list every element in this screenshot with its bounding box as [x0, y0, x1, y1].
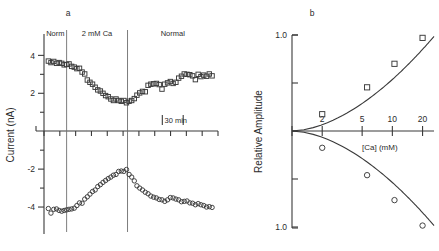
data-point-circle — [132, 179, 136, 183]
data-point-square — [420, 35, 425, 40]
data-point-square — [146, 83, 150, 87]
x-axis-title: [Ca] (mM) — [362, 143, 398, 152]
panel-b-label: b — [310, 8, 315, 18]
y-axis-title: Current (nA) — [5, 107, 16, 162]
panel-a-plot: a42-2-4Norm2 mM CaNormal30 minCurrent (n… — [0, 0, 222, 251]
data-point-square — [392, 61, 397, 66]
x-tick-label: 5 — [360, 114, 365, 124]
y-tick-label: 1.0 — [275, 222, 287, 232]
data-point-circle — [320, 145, 325, 150]
data-point-circle — [420, 223, 425, 228]
data-point-square — [163, 82, 167, 86]
series-inward-current-circles — [46, 167, 214, 215]
x-tick-label: 10 — [388, 114, 398, 124]
data-point-circle — [88, 192, 92, 196]
y-axis-title: Relative Amplitude — [253, 90, 264, 173]
data-point-square — [165, 81, 169, 85]
x-tick-label: 20 — [418, 114, 428, 124]
epoch-label: 2 mM Ca — [82, 29, 113, 38]
figure-container: a42-2-4Norm2 mM CaNormal30 minCurrent (n… — [0, 0, 439, 251]
data-point-circle — [364, 172, 369, 177]
y-tick-label: 2 — [30, 88, 35, 98]
panel-b-plot: b1.01.0251020[Ca] (mM)Relative Amplitude — [222, 0, 439, 251]
data-point-circle — [75, 203, 79, 207]
data-point-circle — [210, 205, 214, 209]
epoch-label: Normal — [161, 29, 186, 38]
data-point-square — [202, 73, 206, 77]
series-outward-current-squares — [46, 59, 214, 105]
scalebar-label: 30 min — [165, 116, 188, 125]
panel-a: a42-2-4Norm2 mM CaNormal30 minCurrent (n… — [0, 0, 222, 251]
data-point-square — [157, 82, 161, 86]
data-point-circle — [392, 197, 397, 202]
x-tick-label: 2 — [320, 114, 325, 124]
epoch-label: Norm — [46, 29, 64, 38]
data-point-circle — [196, 201, 200, 205]
y-tick-label: -4 — [27, 202, 35, 212]
y-tick-label: 4 — [30, 51, 35, 61]
series-relative-amplitude-squares — [320, 35, 426, 117]
data-point-circle — [171, 196, 175, 200]
data-point-circle — [72, 206, 76, 210]
y-tick-label: 1.0 — [275, 30, 287, 40]
panel-b: b1.01.0251020[Ca] (mM)Relative Amplitude — [222, 0, 439, 251]
panel-a-label: a — [66, 8, 71, 18]
data-point-square — [364, 85, 369, 90]
series-relative-amplitude-circles — [320, 145, 426, 228]
data-point-circle — [46, 206, 50, 210]
y-tick-label: -2 — [27, 164, 35, 174]
data-point-square — [160, 87, 164, 91]
